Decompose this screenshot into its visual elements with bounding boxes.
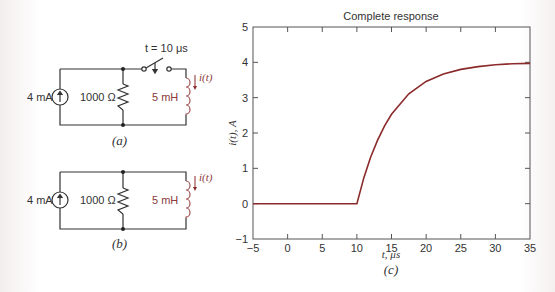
- figure-canvas: i(t) 4 mA 1000 Ω 5 mH t = 10 μs (a) i(t)…: [0, 0, 555, 292]
- switch-contact-icon: [142, 67, 146, 71]
- y-tick-label: 5: [242, 21, 248, 33]
- x-tick-label: 35: [524, 242, 536, 254]
- circuit-b-resistor-label: 1000 Ω: [80, 194, 116, 206]
- x-axis-label: t, μs: [382, 248, 400, 260]
- axis-ticks: [253, 27, 530, 239]
- circuit-a-resistor-label: 1000 Ω: [80, 91, 116, 103]
- x-tick-label: 25: [455, 242, 467, 254]
- node-dot: [121, 123, 125, 127]
- node-dot: [121, 67, 125, 71]
- node-dot: [121, 170, 125, 174]
- circuit-b-source-label: 4 mA: [27, 194, 53, 206]
- circuit-a-wire-top-right: [171, 69, 186, 78]
- x-tick-label: −5: [247, 242, 260, 254]
- resistor-icon: [118, 84, 128, 110]
- y-tick-label: 3: [242, 92, 248, 104]
- x-tick-label: 30: [489, 242, 501, 254]
- y-tick-label: 0: [242, 198, 248, 210]
- x-tick-label: 0: [285, 242, 291, 254]
- switch-contact-icon: [167, 67, 171, 71]
- response-curve: [253, 63, 530, 203]
- circuit-a-caption: (a): [112, 133, 127, 148]
- circuit-b-inductor-label: 5 mH: [152, 194, 178, 206]
- node-dot: [121, 227, 125, 231]
- x-tick-label: 20: [420, 242, 432, 254]
- x-tick-label: 5: [319, 242, 325, 254]
- circuit-a-current-label: i(t): [199, 71, 213, 84]
- circuit-a-inductor-label: 5 mH: [152, 91, 178, 103]
- y-axis-label: i(t), A: [226, 120, 239, 146]
- inductor-icon: [186, 78, 190, 115]
- x-tick-label: 10: [351, 242, 363, 254]
- axis-tick-labels: −505101520253035−1012345: [235, 21, 536, 254]
- chart: Complete response −505101520253035−10123…: [226, 10, 536, 277]
- circuit-b-current-label: i(t): [199, 171, 213, 184]
- y-tick-label: 1: [242, 162, 248, 174]
- circuit-b-caption: (b): [112, 236, 127, 251]
- y-tick-label: −1: [235, 233, 248, 245]
- circuit-a-source-label: 4 mA: [27, 91, 53, 103]
- resistor-icon: [118, 188, 128, 214]
- chart-caption: (c): [384, 262, 398, 277]
- chart-title: Complete response: [343, 10, 438, 22]
- y-tick-label: 4: [242, 56, 248, 68]
- switch-time-label: t = 10 μs: [145, 42, 188, 54]
- inductor-icon: [186, 181, 190, 218]
- plot-frame: [253, 27, 530, 239]
- y-tick-label: 2: [242, 127, 248, 139]
